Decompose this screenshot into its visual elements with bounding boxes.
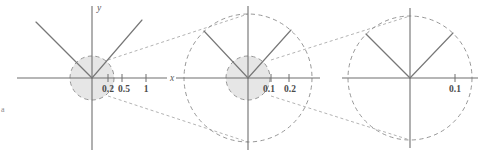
connector-2-top-line [271, 16, 410, 60]
tick-label-panel-1-1: 0.5 [118, 84, 130, 94]
x-axis-label-panel-1: x [169, 73, 175, 83]
magnification-diagram: 0.2 0.5 1 x y 0.1 0.2 [0, 0, 494, 156]
ray-upper-right-panel-2 [248, 30, 291, 78]
connector-2-bottom-line [271, 96, 410, 140]
ray-upper-left-panel-1 [36, 22, 92, 78]
tick-label-panel-1-0: 0.2 [102, 84, 114, 94]
figure-corner-mark: a [1, 105, 5, 114]
y-axis-label-panel-1: y [96, 3, 102, 13]
ray-upper-left-panel-2 [204, 31, 248, 78]
tick-label-panel-2-0: 0.1 [263, 84, 275, 94]
ray-upper-right-panel-3 [410, 33, 453, 78]
panel-second-magnification: 0.1 [342, 8, 478, 148]
panel-first-magnification: 0.1 0.2 [176, 6, 320, 150]
connector-1-top-line [108, 14, 248, 60]
ray-upper-right-panel-1 [92, 20, 142, 78]
connector-1-bottom-line [108, 96, 248, 142]
tick-label-panel-2-1: 0.2 [284, 84, 296, 94]
figure-container: 0.2 0.5 1 x y 0.1 0.2 [0, 0, 494, 156]
panel-overview: 0.2 0.5 1 x y [17, 3, 175, 150]
tick-label-panel-3-0: 0.1 [449, 84, 461, 94]
ray-upper-left-panel-3 [366, 34, 410, 78]
tick-label-panel-1-2: 1 [144, 84, 149, 94]
